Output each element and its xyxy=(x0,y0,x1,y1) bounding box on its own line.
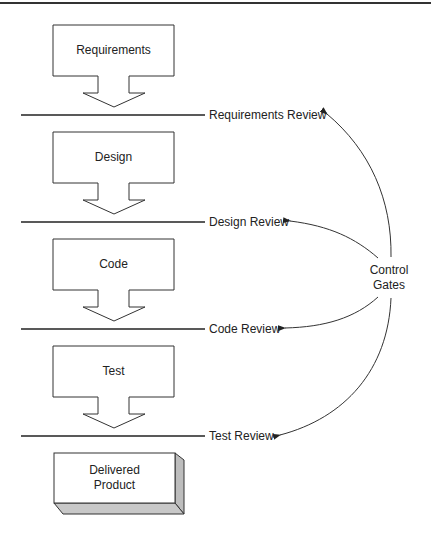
control-gates-label: Control Gates xyxy=(359,263,419,293)
review-label-design: Design Review xyxy=(209,215,289,229)
gate-arrow-design xyxy=(290,221,378,258)
phase-code-shape xyxy=(53,239,174,321)
delivered-product-line2: Product xyxy=(54,478,175,493)
gate-arrow-code xyxy=(285,297,378,328)
delivered-product-line1: Delivered xyxy=(54,463,175,478)
delivered-product-label: Delivered Product xyxy=(54,463,175,493)
phase-design-shape xyxy=(53,132,174,214)
review-label-code: Code Review xyxy=(209,322,280,336)
phase-label-requirements: Requirements xyxy=(53,43,174,58)
control-gates-line1: Control xyxy=(359,263,419,278)
phase-test-shape xyxy=(53,346,174,428)
review-label-test: Test Review xyxy=(209,429,274,443)
phase-label-design: Design xyxy=(53,150,174,165)
review-label-requirements: Requirements Review xyxy=(209,108,326,122)
gate-arrow-requirements xyxy=(327,114,391,257)
control-gates-line2: Gates xyxy=(359,278,419,293)
phase-label-code: Code xyxy=(53,257,174,272)
phase-requirements-shape xyxy=(53,25,174,107)
phase-label-test: Test xyxy=(53,364,174,379)
gate-arrow-test xyxy=(280,298,391,435)
